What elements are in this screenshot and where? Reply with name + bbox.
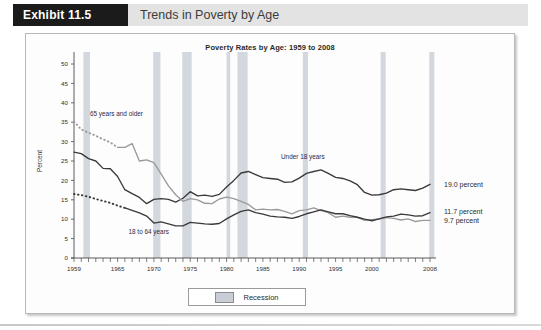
y-axis-title: Percent bbox=[36, 150, 43, 172]
legend-label-recession: Recession bbox=[243, 293, 278, 302]
recession-band bbox=[227, 52, 231, 258]
x-tick-label: 1965 bbox=[111, 265, 125, 272]
x-tick-label: 1970 bbox=[147, 265, 161, 272]
x-tick-label: 1959 bbox=[67, 265, 81, 272]
x-tick-label: 1990 bbox=[292, 265, 306, 272]
end-value-under-18: 19.0 percent bbox=[444, 181, 483, 189]
page-bottom-rule bbox=[0, 324, 541, 326]
recession-band bbox=[381, 52, 386, 258]
label-18-to-64: 18 to 64 years bbox=[128, 228, 169, 236]
recession-band bbox=[153, 52, 160, 258]
y-tick-label: 25 bbox=[61, 157, 68, 164]
poverty-line-chart: 05101520253035404550Percent1959196519701… bbox=[26, 34, 516, 315]
exhibit-badge: Exhibit 11.5 bbox=[13, 4, 128, 26]
recession-band bbox=[429, 52, 434, 258]
screenshot-root: Exhibit 11.5 Trends in Poverty by Age Po… bbox=[0, 0, 541, 330]
y-tick-label: 5 bbox=[65, 235, 69, 242]
chart-frame: Poverty Rates by Age: 1959 to 2008 05101… bbox=[25, 33, 515, 314]
y-tick-label: 0 bbox=[65, 254, 69, 261]
x-tick-label: 2008 bbox=[423, 265, 437, 272]
label-under-18: Under 18 years bbox=[281, 153, 325, 161]
end-value-65-plus: 9.7 percent bbox=[444, 217, 479, 225]
exhibit-header: Exhibit 11.5 Trends in Poverty by Age bbox=[13, 4, 528, 26]
series-line bbox=[74, 152, 430, 204]
y-tick-label: 15 bbox=[61, 196, 68, 203]
y-tick-label: 30 bbox=[61, 138, 68, 145]
recession-band bbox=[182, 52, 191, 258]
series-line-dotted bbox=[74, 121, 118, 147]
y-tick-label: 10 bbox=[61, 215, 68, 222]
recession-swatch-icon bbox=[215, 292, 234, 303]
recession-band bbox=[237, 52, 247, 258]
y-tick-label: 20 bbox=[61, 177, 68, 184]
y-tick-label: 50 bbox=[61, 60, 68, 67]
x-tick-label: 1980 bbox=[220, 265, 234, 272]
x-tick-label: 2000 bbox=[365, 265, 379, 272]
end-value-18-to-64: 11.7 percent bbox=[444, 208, 482, 216]
y-tick-label: 40 bbox=[61, 99, 68, 106]
x-tick-label: 1995 bbox=[329, 265, 343, 272]
label-65-and-older: 65 years and older bbox=[90, 110, 144, 118]
y-tick-label: 35 bbox=[61, 118, 68, 125]
x-tick-label: 1985 bbox=[256, 265, 270, 272]
series-line-dotted bbox=[74, 194, 125, 208]
plot-area: 05101520253035404550Percent1959196519701… bbox=[26, 34, 516, 315]
y-tick-label: 45 bbox=[61, 80, 68, 87]
chart-legend: Recession bbox=[188, 288, 306, 306]
exhibit-title: Trends in Poverty by Age bbox=[128, 4, 279, 26]
x-tick-label: 1975 bbox=[183, 265, 197, 272]
